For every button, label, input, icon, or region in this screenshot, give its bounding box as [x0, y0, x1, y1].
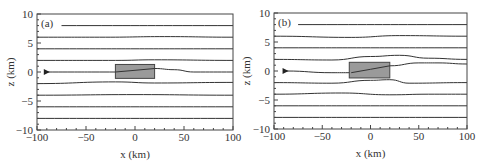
streamline [37, 95, 233, 96]
y-tick-label: 0 [28, 66, 34, 78]
x-tick-label: 50 [179, 131, 191, 143]
y-axis-label: z (km) [4, 57, 17, 86]
x-tick-label: 50 [413, 130, 425, 142]
y-tick-label: −10 [16, 124, 34, 136]
y-tick-label: 10 [259, 7, 271, 19]
streamline [274, 55, 467, 60]
panel-label: (b) [278, 16, 291, 29]
source-arrow-icon [283, 68, 289, 74]
y-tick-label: −10 [253, 123, 271, 135]
panel-label: (a) [41, 17, 54, 30]
x-tick-label: 0 [368, 130, 374, 142]
y-tick-label: 5 [28, 37, 34, 49]
x-tick-label: 100 [225, 131, 242, 143]
streamline [37, 60, 233, 61]
streamline [274, 93, 467, 95]
y-tick-label: 0 [265, 65, 271, 77]
x-tick-label: 100 [459, 130, 476, 142]
x-tick-label: −50 [77, 131, 95, 143]
y-tick-label: 10 [22, 8, 34, 20]
x-axis-label: x (km) [120, 148, 150, 161]
streamline [274, 36, 467, 38]
panel-b: (b)−100−50050100−10−50510x (km)z (km) [240, 7, 476, 160]
panel-a: (a)−100−50050100−10−50510x (km)z (km) [4, 8, 242, 161]
x-axis-label: x (km) [356, 147, 386, 160]
x-tick-label: −50 [314, 130, 332, 142]
streamline [37, 37, 233, 38]
x-tick-label: 0 [132, 131, 138, 143]
y-tick-label: −5 [258, 94, 270, 106]
y-tick-label: −5 [21, 95, 33, 107]
source-arrow-icon [44, 69, 50, 75]
obstacle-box [349, 62, 390, 78]
figure: (a)−100−50050100−10−50510x (km)z (km) (b… [0, 0, 483, 165]
streamline [274, 80, 467, 84]
y-tick-label: 5 [265, 36, 271, 48]
streamline [37, 82, 233, 84]
y-axis-label: z (km) [240, 56, 253, 85]
